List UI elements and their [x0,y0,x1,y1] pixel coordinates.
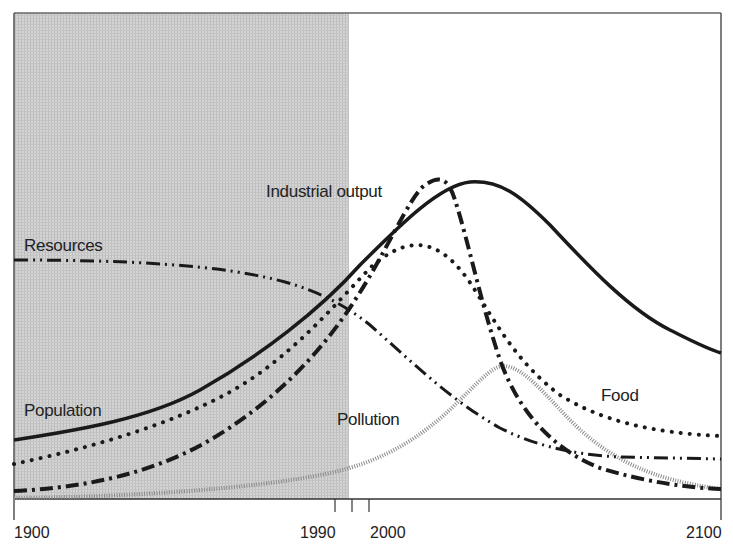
tick-label-2100: 2100 [686,524,722,541]
label-pollution: Pollution [337,410,400,429]
tick-label-2000: 2000 [370,524,406,541]
label-industrial-output: Industrial output [266,182,382,201]
limits-to-growth-chart: Industrial output Resources Population P… [0,0,733,552]
label-food: Food [601,386,639,405]
historical-shaded-region [14,13,349,499]
label-population: Population [24,401,101,420]
tick-label-1900: 1900 [14,524,50,541]
label-resources: Resources [24,236,103,255]
tick-label-1990: 1990 [300,524,336,541]
